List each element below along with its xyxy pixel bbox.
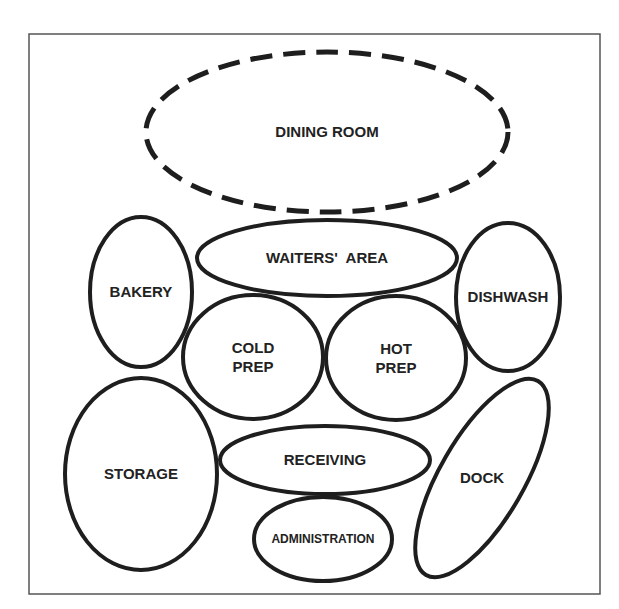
area-waiters-area: WAITERS' AREA (197, 220, 457, 296)
hot-prep-label: HOT (380, 340, 412, 357)
bakery-label: BAKERY (110, 283, 173, 300)
hot-prep-label: PREP (376, 359, 417, 376)
cold-prep-ellipse (183, 295, 323, 419)
area-bakery: BAKERY (90, 217, 192, 367)
waiters-area-label: WAITERS' AREA (266, 249, 388, 266)
diagram-frame (29, 34, 600, 594)
hot-prep-ellipse (326, 296, 466, 420)
area-hot-prep: HOTPREP (326, 296, 466, 420)
area-bubbles: DINING ROOMWAITERS' AREABAKERYDISHWASHCO… (65, 52, 574, 596)
area-dining-room: DINING ROOM (146, 52, 508, 212)
receiving-label: RECEIVING (284, 451, 367, 468)
administration-label: ADMINISTRATION (271, 532, 374, 546)
dock-label: DOCK (460, 469, 504, 486)
cold-prep-label: COLD (232, 339, 275, 356)
kitchen-layout-diagram: DINING ROOMWAITERS' AREABAKERYDISHWASHCO… (0, 0, 619, 609)
area-storage: STORAGE (65, 378, 217, 570)
dishwash-label: DISHWASH (468, 288, 549, 305)
area-administration: ADMINISTRATION (254, 497, 392, 581)
area-receiving: RECEIVING (220, 426, 430, 494)
area-dishwash: DISHWASH (456, 223, 560, 371)
area-cold-prep: COLDPREP (183, 295, 323, 419)
dining-room-label: DINING ROOM (275, 123, 378, 140)
storage-label: STORAGE (104, 465, 178, 482)
cold-prep-label: PREP (233, 358, 274, 375)
